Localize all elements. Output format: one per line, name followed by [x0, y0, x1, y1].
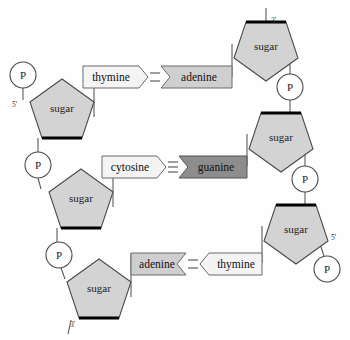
right-phosphate-2-label: P — [302, 173, 308, 185]
right-sugar-2: sugar — [249, 113, 313, 172]
base-pair-1: thymine adenine — [83, 66, 232, 88]
left-link-p3-sugar3 — [61, 268, 65, 279]
base-pair-2: cytosine guanine — [102, 156, 247, 178]
right-phosphate-3-label: P — [324, 263, 330, 275]
base-pair-1-hydrogen-bonds — [150, 73, 160, 81]
base-pair-1-left-base-label: thymine — [92, 71, 130, 84]
right-sugar-1-label: sugar — [254, 40, 278, 52]
left-phosphate-1: P — [10, 62, 36, 88]
base-pair-2-hydrogen-bonds — [168, 162, 178, 172]
left-phosphate-3: P — [46, 242, 72, 268]
dna-diagram-canvas: sugar sugar sugar sugar sugar sugar P — [0, 0, 350, 340]
left-sugar-3-label: sugar — [87, 282, 111, 294]
base-pair-3-hydrogen-bonds — [188, 260, 198, 268]
left-link-p2-sugar2 — [38, 178, 41, 189]
left-strand-3prime-label: 3' — [70, 320, 76, 329]
base-pair-1-right-base-label: adenine — [181, 71, 217, 83]
right-sugar-3: sugar — [264, 205, 328, 264]
left-sugar-3: sugar — [67, 259, 131, 318]
left-phosphate-2: P — [25, 152, 51, 178]
left-phosphate-2-label: P — [35, 159, 41, 171]
left-strand-5prime-label: 5' — [12, 100, 18, 109]
left-sugar-1-label: sugar — [50, 102, 74, 114]
left-sugar-2-label: sugar — [69, 192, 93, 204]
dna-structure-diagram: sugar sugar sugar sugar sugar sugar P — [0, 0, 350, 340]
base-pair-2-right-base-label: guanine — [198, 161, 234, 174]
right-phosphate-2: P — [292, 166, 318, 192]
right-sugar-2-label: sugar — [269, 131, 293, 143]
base-pair-2-left-base-label: cytosine — [111, 161, 149, 174]
right-phosphate-1-label: P — [287, 81, 293, 93]
base-pair-3: adenine thymine — [131, 253, 262, 275]
right-strand-5prime-label: 5' — [331, 233, 337, 242]
left-phosphate-3-label: P — [56, 249, 62, 261]
right-strand-3prime-label: 3' — [271, 16, 277, 25]
right-phosphate-3: P — [314, 256, 340, 282]
base-pair-3-left-base-label: adenine — [139, 258, 175, 270]
left-phosphate-1-label: P — [20, 69, 26, 81]
right-phosphate-1: P — [277, 74, 303, 100]
base-pair-3-right-base-label: thymine — [217, 258, 255, 271]
right-sugar-3-label: sugar — [284, 223, 308, 235]
right-sugar-1: sugar — [234, 22, 298, 81]
